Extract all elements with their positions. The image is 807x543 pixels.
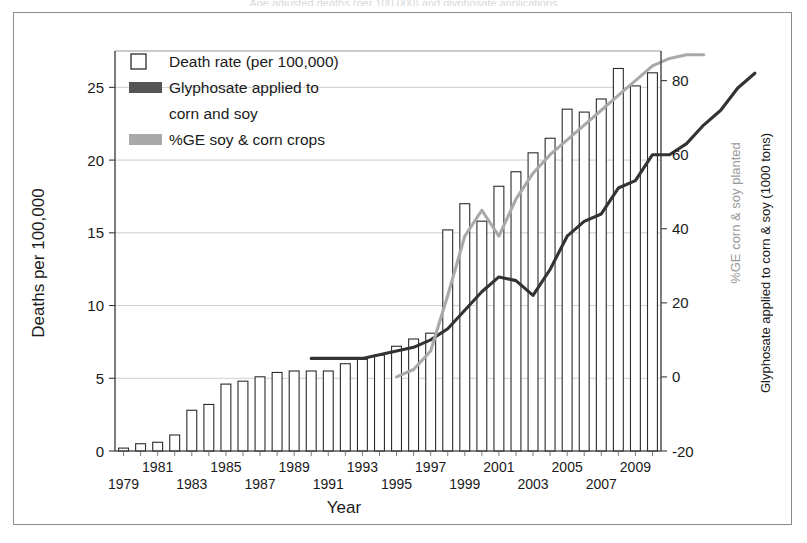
bar-1996 [409, 339, 419, 451]
bar-2003 [528, 153, 538, 451]
combination-chart: 0510152025-20020406080198119851989199319… [14, 13, 793, 526]
bar-1988 [272, 372, 282, 451]
bar-1987 [255, 377, 265, 451]
bar-1992 [340, 364, 350, 451]
x-tick-label-1983: 1983 [176, 476, 207, 492]
x-tick-label-2007: 2007 [586, 476, 617, 492]
bar-1983 [187, 410, 197, 451]
legend-swatch-glyphosate [129, 82, 162, 93]
bar-1993 [357, 359, 367, 451]
legend-label-0: Death rate (per 100,000) [169, 53, 339, 70]
x-tick-label-1999: 1999 [449, 476, 480, 492]
bar-1995 [392, 346, 402, 451]
y-tick-label-left: 25 [87, 79, 104, 96]
y-tick-label-right: 60 [672, 146, 689, 163]
bar-1994 [375, 355, 385, 451]
bar-2004 [545, 138, 555, 451]
x-tick-label-2009: 2009 [620, 459, 651, 475]
x-tick-label-2003: 2003 [517, 476, 548, 492]
y-tick-label-right: -20 [672, 443, 694, 460]
x-tick-label-1981: 1981 [142, 459, 173, 475]
y-tick-label-right: 40 [672, 220, 689, 237]
x-axis-title: Year [327, 498, 362, 517]
x-tick-label-1985: 1985 [210, 459, 241, 475]
bar-2008 [613, 68, 623, 451]
y-tick-label-right: 20 [672, 294, 689, 311]
bar-2010 [648, 73, 658, 451]
x-tick-label-2001: 2001 [483, 459, 514, 475]
legend-label-1: Glyphosate applied to [169, 79, 319, 96]
bars-group [119, 68, 658, 451]
legend-label-1-line2: corn and soy [169, 105, 258, 122]
bar-2005 [562, 109, 572, 451]
bar-1990 [306, 371, 316, 451]
x-tick-label-1979: 1979 [108, 476, 139, 492]
y-tick-label-left: 0 [96, 443, 104, 460]
bar-1998 [443, 230, 453, 451]
bar-1989 [289, 371, 299, 451]
y-tick-label-left: 5 [96, 370, 104, 387]
y-axis-title-right: Glyphosate applied to corn & soy (1000 t… [758, 133, 773, 393]
y-tick-label-left: 20 [87, 152, 104, 169]
y-axis-title-left: Deaths per 100,000 [29, 188, 48, 337]
bar-1984 [204, 404, 214, 451]
x-tick-label-1993: 1993 [347, 459, 378, 475]
bar-2007 [596, 99, 606, 451]
bar-1981 [153, 442, 163, 451]
legend-swatch-ge-percent [129, 134, 162, 145]
x-tick-label-1997: 1997 [415, 459, 446, 475]
cropped-caption-text: Age adjusted deaths (per 100,000) and gl… [0, 0, 807, 6]
legend-label-2: %GE soy & corn crops [169, 131, 325, 148]
bar-1986 [238, 381, 248, 451]
bar-2002 [511, 172, 521, 451]
x-tick-label-1995: 1995 [381, 476, 412, 492]
x-tick-label-1991: 1991 [313, 476, 344, 492]
y-tick-label-left: 10 [87, 297, 104, 314]
bar-1991 [323, 371, 333, 451]
x-tick-label-2005: 2005 [552, 459, 583, 475]
chart-legend: Death rate (per 100,000)Glyphosate appli… [129, 53, 339, 148]
y-axis-title-right-secondary: %GE corn & soy planted [728, 142, 743, 284]
x-tick-label-1989: 1989 [279, 459, 310, 475]
bar-1980 [136, 444, 146, 451]
bar-2006 [579, 112, 589, 451]
bar-1982 [170, 435, 180, 451]
bar-2000 [477, 221, 487, 451]
x-tick-label-1987: 1987 [244, 476, 275, 492]
bar-1985 [221, 384, 231, 451]
y-tick-label-right: 80 [672, 72, 689, 89]
legend-swatch-death-rate [131, 54, 146, 69]
figure-frame: 0510152025-20020406080198119851989199319… [13, 12, 792, 525]
y-tick-label-left: 15 [87, 224, 104, 241]
bar-2009 [630, 86, 640, 451]
y-tick-label-right: 0 [672, 368, 680, 385]
